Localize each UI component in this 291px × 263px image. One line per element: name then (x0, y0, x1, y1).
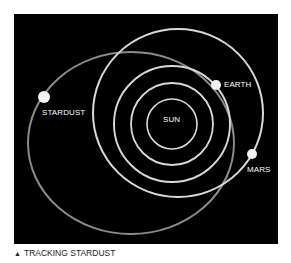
orbit-diagram-panel: SUN EARTH MARS STARDUST (14, 14, 278, 244)
caption-text: TRACKING STARDUST (24, 248, 115, 258)
figure-caption: ▲TRACKING STARDUST (14, 248, 115, 258)
mars-dot (247, 149, 257, 159)
earth-dot (211, 80, 221, 90)
triangle-up-icon: ▲ (14, 250, 21, 257)
stardust-orbit (28, 52, 234, 234)
sun-label: SUN (163, 115, 180, 124)
orbit-diagram (14, 14, 278, 244)
inner-orbit-1 (147, 99, 197, 149)
stardust-dot (38, 91, 50, 103)
mars-label: MARS (247, 165, 271, 174)
mars-orbit (93, 29, 263, 197)
stardust-label: STARDUST (42, 108, 85, 117)
earth-label: EARTH (224, 80, 251, 89)
inner-orbit-2 (131, 83, 213, 165)
